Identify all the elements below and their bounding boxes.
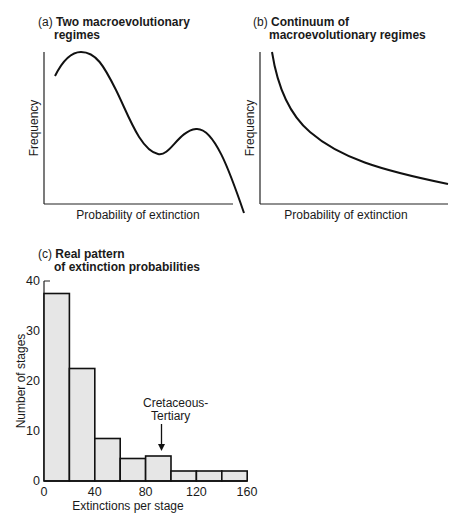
histogram-bars — [44, 294, 247, 482]
xtick-160: 160 — [237, 485, 258, 499]
panel-a-xlabel: Probability of extinction — [76, 208, 199, 222]
bar-80-100 — [146, 456, 171, 481]
bar-40-60 — [95, 439, 120, 482]
panel-a-curve — [55, 52, 244, 213]
ytick-30: 30 — [26, 324, 40, 338]
bar-120-140 — [196, 471, 221, 481]
panel-c-ylabel: Number of stages — [14, 334, 28, 429]
xtick-120: 120 — [186, 485, 207, 499]
bar-20-40 — [69, 369, 94, 482]
panel-b-xlabel: Probability of extinction — [284, 208, 407, 222]
annotation-arrow-icon — [158, 424, 165, 451]
panel-c-chart: 40 30 20 10 0 0 40 80 120 160 Extinction… — [14, 274, 257, 513]
bar-60-80 — [120, 459, 145, 482]
xtick-80: 80 — [139, 485, 153, 499]
panel-b-curve — [272, 52, 448, 184]
ytick-40: 40 — [26, 274, 40, 288]
panel-c-xlabel: Extinctions per stage — [72, 499, 184, 513]
panel-b-ylabel: Frequency — [243, 100, 257, 157]
xtick-40: 40 — [88, 485, 102, 499]
xtick-0: 0 — [41, 485, 48, 499]
panel-b-chart: Probability of extinction Frequency — [243, 52, 448, 222]
bar-100-120 — [171, 471, 196, 481]
figure-canvas: Probability of extinction Frequency Prob… — [0, 0, 463, 522]
ytick-10: 10 — [26, 424, 40, 438]
bar-0-20 — [44, 294, 69, 482]
panel-a-chart: Probability of extinction Frequency — [27, 52, 244, 222]
ytick-20: 20 — [26, 374, 40, 388]
annotation-line2: Tertiary — [151, 409, 190, 423]
annotation-line1: Cretaceous- — [143, 396, 208, 410]
bar-140-160 — [222, 471, 247, 481]
panel-a-ylabel: Frequency — [27, 100, 41, 157]
ytick-0: 0 — [33, 474, 40, 488]
